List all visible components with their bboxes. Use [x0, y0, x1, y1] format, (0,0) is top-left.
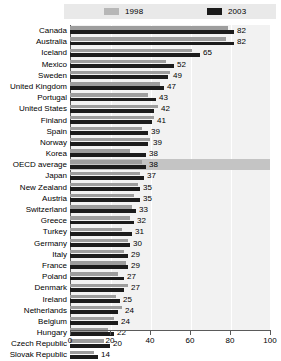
chart-row: Sweden49 [0, 70, 281, 81]
value-label: 42 [158, 103, 170, 114]
x-axis-line [70, 330, 271, 331]
bar-2003 [70, 42, 234, 46]
chart-row: OECD average38 [0, 159, 281, 170]
bar-2003 [70, 221, 134, 225]
bar-1998 [70, 295, 116, 298]
value-label: 27 [128, 282, 140, 293]
chart-row: Italy29 [0, 249, 281, 260]
chart-legend: 1998 2003 [64, 4, 276, 19]
bar-group: 41 [70, 115, 270, 126]
bar-1998 [70, 183, 138, 186]
category-label: Austria [42, 193, 67, 204]
category-label: Denmark [35, 282, 67, 293]
x-axis-tick [70, 331, 71, 335]
value-label: 35 [140, 182, 152, 193]
x-axis-tick [270, 331, 271, 335]
bar-group: 39 [70, 126, 270, 137]
value-label: 24 [122, 305, 134, 316]
bar-1998 [70, 116, 154, 119]
chart-row: Greece32 [0, 215, 281, 226]
value-label: 52 [174, 59, 186, 70]
bar-group: 39 [70, 137, 270, 148]
bar-1998 [70, 149, 130, 152]
x-axis-tick [150, 331, 151, 335]
x-axis-tick-label: 40 [135, 336, 165, 346]
x-axis-tick-label: 20 [95, 336, 125, 346]
category-label: Spain [47, 126, 67, 137]
bar-group: 38 [70, 159, 270, 170]
category-label: Italy [52, 249, 67, 260]
bar-1998 [70, 138, 150, 141]
bar-1998 [70, 317, 114, 320]
chart-row: Denmark27 [0, 282, 281, 293]
legend-swatch-1998-icon [104, 8, 119, 15]
value-label: 32 [134, 215, 146, 226]
bar-2003 [70, 277, 124, 281]
chart-row: New Zealand35 [0, 182, 281, 193]
x-axis-tick [190, 331, 191, 335]
category-label: OECD average [13, 159, 67, 170]
chart-row: Australia82 [0, 36, 281, 47]
bar-group: 24 [70, 305, 270, 316]
bar-2003 [70, 30, 234, 34]
bar-2003 [70, 86, 164, 90]
bar-2003 [70, 321, 118, 325]
value-label: 39 [150, 137, 162, 148]
bar-group: 37 [70, 170, 270, 181]
bar-2003 [70, 153, 146, 157]
category-label: Poland [42, 271, 67, 282]
bar-1998 [70, 37, 226, 40]
x-axis-tick [230, 331, 231, 335]
chart-row: Canada82 [0, 25, 281, 36]
bar-1998 [70, 194, 134, 197]
x-axis-tick-label: 60 [175, 336, 205, 346]
chart-row: Portugal43 [0, 92, 281, 103]
bar-2003 [70, 120, 152, 124]
category-label: Sweden [38, 70, 67, 81]
chart-row: Japan37 [0, 170, 281, 181]
bar-2003 [70, 288, 124, 292]
bar-group: 52 [70, 59, 270, 70]
category-label: Greece [41, 215, 67, 226]
bar-group: 29 [70, 249, 270, 260]
bar-1998 [70, 26, 228, 29]
category-label: Germany [34, 238, 67, 249]
bar-1998 [70, 272, 118, 275]
value-label: 14 [98, 349, 110, 360]
bar-group: 14 [70, 349, 270, 360]
chart-row: Iceland65 [0, 47, 281, 58]
category-label: United Kingdom [10, 81, 67, 92]
bar-1998 [70, 306, 122, 309]
chart-row: Korea38 [0, 148, 281, 159]
bar-1998 [70, 49, 192, 52]
bar-1998 [70, 105, 158, 108]
bar-group: 33 [70, 204, 270, 215]
category-label: United States [19, 103, 67, 114]
value-label: 39 [148, 126, 160, 137]
bar-group: 38 [70, 148, 270, 159]
value-label: 35 [140, 193, 152, 204]
bar-1998 [70, 172, 140, 175]
bar-2003 [70, 176, 144, 180]
bar-1998 [70, 93, 148, 96]
chart-row: United States42 [0, 103, 281, 114]
value-label: 24 [118, 316, 130, 327]
category-label: Ireland [43, 294, 67, 305]
value-label: 37 [144, 170, 156, 181]
bar-1998 [70, 261, 126, 264]
bar-2003 [70, 198, 140, 202]
bar-2003 [70, 109, 154, 113]
chart-row: United Kingdom47 [0, 81, 281, 92]
chart-row: Switzerland33 [0, 204, 281, 215]
chart-row: Austria35 [0, 193, 281, 204]
value-label: 38 [146, 148, 158, 159]
category-label: Portugal [37, 92, 67, 103]
category-label: Canada [39, 25, 67, 36]
value-label: 41 [154, 115, 166, 126]
bar-2003 [70, 131, 148, 135]
bar-1998 [70, 127, 142, 130]
legend-entry-1998: 1998 [104, 6, 143, 17]
category-label: Turkey [43, 226, 67, 237]
bar-2003 [70, 53, 200, 57]
category-label: Slovak Republic [10, 349, 67, 360]
